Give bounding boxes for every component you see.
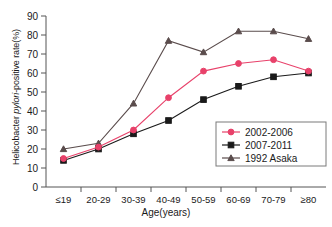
y-tick-label: 80 [27, 30, 39, 41]
data-point-circle [236, 61, 242, 67]
legend-label: 1992 Asaka [245, 153, 298, 164]
data-point-circle [306, 68, 312, 74]
x-tick-label: 40-49 [156, 194, 180, 205]
x-tick-label: ≥80 [301, 194, 317, 205]
y-tick-label: 30 [27, 125, 39, 136]
y-tick-label: 0 [32, 182, 38, 193]
data-point-circle [131, 127, 137, 133]
x-tick-label: ≤19 [56, 194, 72, 205]
data-point-circle [228, 129, 234, 135]
y-tick-label: 70 [27, 49, 39, 60]
legend-label: 2002-2006 [245, 127, 293, 138]
data-point-triangle [165, 38, 171, 44]
y-tick-label: 20 [27, 144, 39, 155]
y-tick-label: 90 [27, 11, 39, 22]
x-tick-label: 60-69 [226, 194, 250, 205]
data-point-square [166, 118, 172, 124]
y-tick-label: 50 [27, 87, 39, 98]
chart-legend: 2002-20062007-20111992 Asaka [216, 122, 326, 166]
y-tick-label: 10 [27, 163, 39, 174]
data-point-triangle [130, 100, 136, 106]
chart-container: Helicobacter pylori-positive rate(%) Age… [0, 0, 332, 227]
data-point-square [228, 142, 234, 148]
data-point-square [236, 84, 242, 90]
x-tick-label: 50-59 [191, 194, 215, 205]
x-tick-label: 30-39 [121, 194, 145, 205]
data-point-circle [271, 57, 277, 63]
x-axis-ticks: ≤1920-2930-3940-4950-5960-6970-79≥80 [56, 187, 317, 205]
plot-area: 0102030405060708090 ≤1920-2930-3940-4950… [0, 0, 332, 227]
legend-label: 2007-2011 [245, 140, 293, 151]
x-tick-label: 70-79 [261, 194, 285, 205]
x-tick-label: 20-29 [86, 194, 110, 205]
data-point-circle [61, 156, 67, 162]
data-point-square [201, 97, 207, 103]
data-point-circle [166, 95, 172, 101]
y-axis-ticks: 0102030405060708090 [27, 11, 46, 193]
data-point-circle [201, 68, 207, 74]
y-tick-label: 60 [27, 68, 39, 79]
y-tick-label: 40 [27, 106, 39, 117]
data-point-square [271, 74, 277, 80]
data-point-circle [96, 144, 102, 150]
